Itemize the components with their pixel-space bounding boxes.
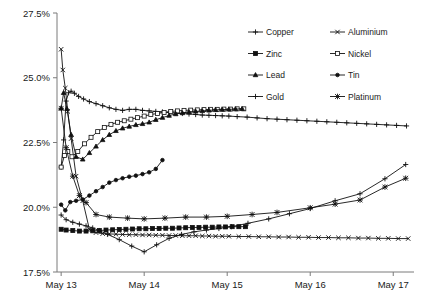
series-gold xyxy=(59,162,409,254)
data-point xyxy=(147,170,151,174)
legend-marker-plus xyxy=(253,29,258,34)
legend-label: Copper xyxy=(266,27,294,37)
data-point xyxy=(394,123,399,128)
data-point xyxy=(235,114,240,119)
data-point xyxy=(204,225,208,229)
data-point xyxy=(59,203,63,207)
data-point xyxy=(206,113,211,118)
data-point xyxy=(114,178,118,182)
data-point xyxy=(109,122,113,126)
data-point xyxy=(70,173,76,179)
data-point xyxy=(287,211,292,216)
data-point xyxy=(124,227,128,231)
legend-item-platinum: Platinum xyxy=(330,92,381,102)
data-point xyxy=(304,118,309,123)
data-point xyxy=(357,197,363,203)
data-point xyxy=(127,107,132,112)
data-point xyxy=(154,167,158,171)
data-point xyxy=(226,113,231,118)
data-point xyxy=(184,226,188,230)
legend-label: Tin xyxy=(348,70,360,80)
y-tick-label: 17.5% xyxy=(23,267,50,278)
chart-canvas: 17.5%20.0%22.5%25.0%27.5% May 13May 14Ma… xyxy=(0,0,424,307)
legend-label: Platinum xyxy=(348,92,381,102)
y-tick-label: 27.5% xyxy=(23,8,50,19)
legend-item-copper: Copper xyxy=(248,27,294,37)
data-point xyxy=(93,101,98,106)
data-point xyxy=(245,115,250,120)
y-tick-label: 25.0% xyxy=(23,72,50,83)
data-point xyxy=(220,113,225,118)
data-point xyxy=(81,96,86,101)
data-point xyxy=(141,216,147,222)
data-point xyxy=(140,108,145,113)
data-point xyxy=(94,189,98,193)
data-point xyxy=(104,228,108,232)
legend-label: Lead xyxy=(266,70,285,80)
x-tick-label: May 15 xyxy=(212,279,243,290)
data-point xyxy=(133,107,138,112)
data-point xyxy=(107,105,112,110)
data-point xyxy=(197,225,201,229)
data-point xyxy=(76,150,80,154)
data-point xyxy=(344,120,349,125)
line-chart: 17.5%20.0%22.5%25.0%27.5% May 13May 14Ma… xyxy=(0,0,424,307)
data-point xyxy=(82,142,86,146)
data-point xyxy=(129,244,134,249)
legend-item-zinc: Zinc xyxy=(248,49,283,59)
data-point xyxy=(117,237,122,242)
data-point xyxy=(374,122,379,127)
data-point xyxy=(307,205,313,211)
legend-marker-plus-thin xyxy=(253,94,258,99)
data-point xyxy=(382,184,388,190)
data-point xyxy=(155,111,159,115)
x-tick-label: May 13 xyxy=(46,279,77,290)
data-point xyxy=(125,215,131,221)
data-point xyxy=(170,226,174,230)
data-point xyxy=(161,158,165,162)
legend-item-gold: Gold xyxy=(248,92,284,102)
data-point xyxy=(266,216,271,221)
series-line-gold xyxy=(61,165,406,252)
legend-marker-circle xyxy=(336,73,340,77)
legend-label: Aluminium xyxy=(348,27,388,37)
data-point xyxy=(191,229,196,234)
x-tick-label: May 16 xyxy=(295,279,326,290)
data-point xyxy=(77,221,82,226)
data-point xyxy=(284,117,289,122)
data-point xyxy=(162,110,166,114)
series-line-nickel xyxy=(61,109,244,167)
legend-label: Zinc xyxy=(266,49,283,59)
x-tick-label: May 14 xyxy=(129,279,160,290)
data-point xyxy=(136,116,140,120)
data-point xyxy=(364,121,369,126)
data-point xyxy=(58,106,64,112)
data-point xyxy=(69,132,74,136)
data-point xyxy=(59,227,63,231)
data-point xyxy=(403,162,408,167)
data-point xyxy=(102,125,106,129)
data-point xyxy=(204,214,210,220)
data-point xyxy=(87,99,92,104)
data-point xyxy=(294,118,299,123)
data-point xyxy=(403,175,409,181)
data-point xyxy=(314,119,319,124)
data-point xyxy=(150,226,154,230)
series-nickel xyxy=(59,107,246,169)
data-point xyxy=(84,229,88,233)
x-tick-label: May 17 xyxy=(378,279,409,290)
chart-legend: CopperAluminiumZincNickelLeadTinGoldPlat… xyxy=(248,27,388,102)
data-point xyxy=(142,249,147,254)
series-line-lead xyxy=(61,93,242,160)
legend-marker-star xyxy=(335,94,341,100)
data-point xyxy=(122,119,126,123)
data-point xyxy=(64,209,68,213)
legend-item-nickel: Nickel xyxy=(330,49,371,59)
data-point xyxy=(384,122,389,127)
data-point xyxy=(116,120,120,124)
data-point xyxy=(59,165,63,169)
data-point xyxy=(93,212,99,218)
data-point xyxy=(157,226,161,230)
data-point xyxy=(144,227,148,231)
data-point xyxy=(149,113,153,117)
